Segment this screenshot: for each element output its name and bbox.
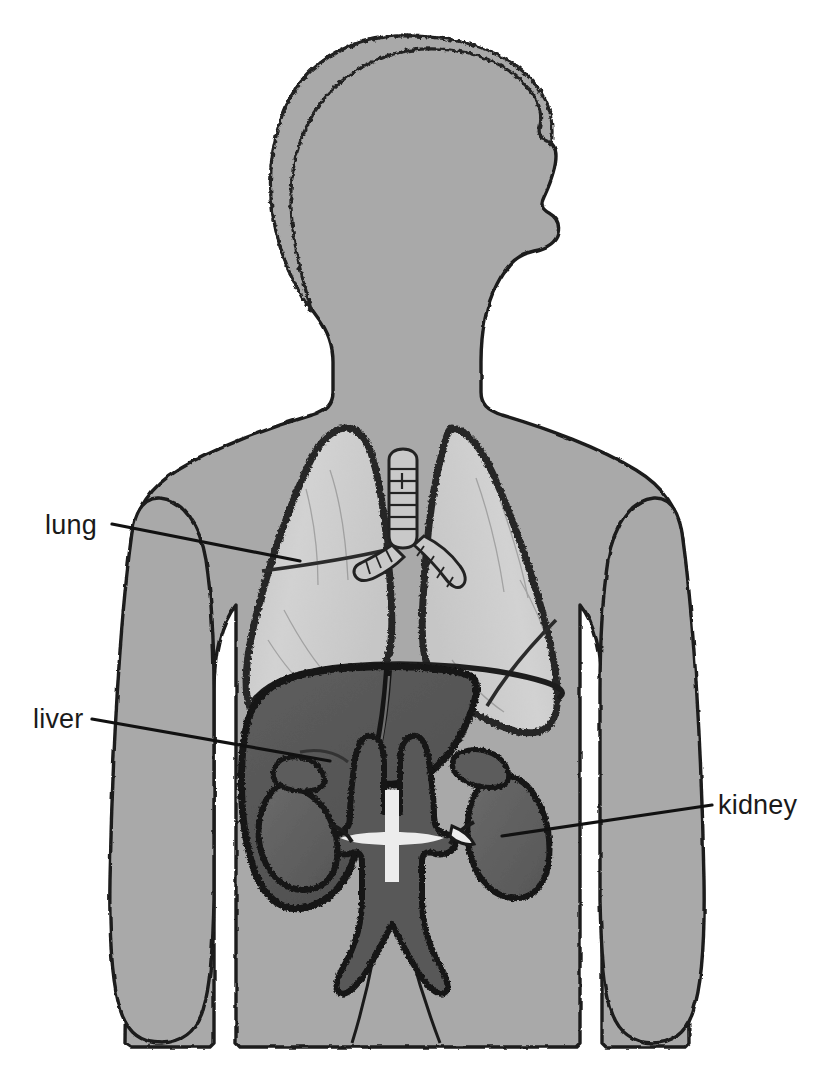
- left-arm: [110, 498, 214, 1043]
- vessel-highlight-vertical: [385, 790, 399, 882]
- left-adrenal-gland: [273, 757, 324, 791]
- trachea-tube: [389, 449, 417, 548]
- anatomy-diagram-canvas: lung liver kidney: [0, 0, 813, 1085]
- anatomy-illustration: lung liver kidney: [0, 0, 813, 1085]
- lung-label-text: lung: [45, 510, 97, 540]
- liver-label-text: liver: [33, 704, 84, 734]
- right-arm: [600, 498, 704, 1043]
- kidney-label-text: kidney: [718, 790, 798, 820]
